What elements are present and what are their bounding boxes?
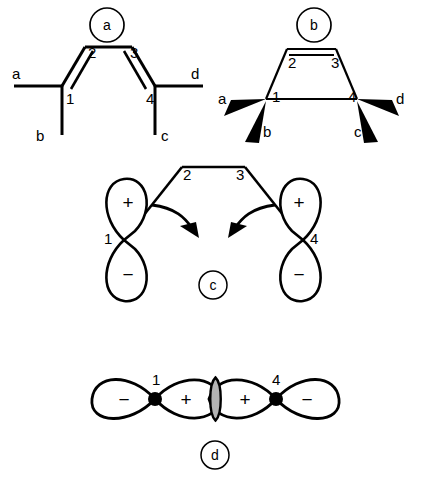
panel-c-atom-3: 3 — [236, 166, 244, 183]
panel-d-label-text: d — [211, 447, 219, 463]
panel-a-atom-1: 1 — [66, 90, 74, 107]
panel-a-circle-label: a — [90, 8, 124, 42]
panel-b-atom-3: 3 — [331, 54, 339, 71]
orbital-c4-upper-sign: + — [293, 192, 304, 213]
panel-c-atom-2: 2 — [183, 166, 191, 183]
nucleus-dot-c1 — [148, 392, 162, 406]
rotation-arrowhead-left — [180, 222, 199, 238]
panel-a-substituent-d: d — [191, 65, 199, 82]
panel-c-chain — [124, 167, 303, 240]
panel-c-circle-label: c — [199, 271, 227, 299]
panel-a-substituent-labels: a b c d — [12, 65, 199, 144]
chemistry-figure: a 1 2 3 4 — [0, 0, 423, 479]
panel-c: + − + − 1 2 3 4 c — [104, 166, 321, 301]
panel-b-atom-2: 2 — [288, 54, 296, 71]
panel-b-substituent-b: b — [263, 123, 271, 140]
panel-b-atom-1: 1 — [272, 88, 280, 105]
orbital-d-inner-right-sign: + — [239, 389, 250, 410]
panel-b-wedges — [224, 99, 399, 143]
panel-a-skeleton — [14, 47, 203, 135]
panel-b: b 1 2 3 4 a b c d — [218, 8, 404, 143]
orbital-c1-lower-sign: − — [122, 264, 133, 285]
panel-b-atom-4: 4 — [348, 88, 356, 105]
panel-b-substituent-labels: a b c d — [218, 90, 404, 140]
panel-a-atom-4: 4 — [146, 90, 154, 107]
panel-b-label-text: b — [310, 17, 318, 33]
panel-a-atom-2: 2 — [88, 44, 96, 61]
panel-a-label-text: a — [103, 17, 111, 33]
panel-d-atom-1: 1 — [152, 371, 160, 388]
nucleus-dot-c4 — [269, 392, 283, 406]
panel-a-substituent-c: c — [161, 127, 169, 144]
panel-b-substituent-d: d — [396, 90, 404, 107]
orbital-c4-lower-sign: − — [293, 264, 304, 285]
panel-d-atom-4: 4 — [272, 371, 280, 388]
panel-d-circle-label: d — [201, 441, 229, 469]
panel-c-arrowheads — [180, 222, 247, 238]
panel-d: − + + − 1 4 d — [92, 371, 339, 469]
rotation-arrowhead-right — [228, 222, 247, 238]
figure-canvas: a 1 2 3 4 — [0, 0, 423, 479]
panel-b-substituent-a: a — [218, 90, 227, 107]
orbital-c1-upper-sign: + — [122, 192, 133, 213]
panel-c-atom-1: 1 — [104, 230, 112, 247]
orbital-overlap-region — [210, 378, 221, 421]
bond-c1-c2-inner — [62, 47, 85, 86]
orbital-d-outer-right-sign: − — [301, 389, 312, 410]
orbital-d-outer-left-sign: − — [118, 389, 129, 410]
panel-a-atom-3: 3 — [130, 44, 138, 61]
panel-a: a 1 2 3 4 — [12, 8, 203, 144]
panel-a-substituent-a: a — [12, 65, 21, 82]
orbital-d-inner-left-sign: + — [180, 389, 191, 410]
panel-b-circle-label: b — [297, 8, 331, 42]
panel-c-rotation-arrows — [152, 205, 275, 228]
panel-b-substituent-c: c — [354, 123, 362, 140]
panel-c-atom-4: 4 — [310, 230, 318, 247]
panel-a-substituent-b: b — [36, 127, 44, 144]
panel-c-label-text: c — [210, 277, 217, 293]
panel-b-atom-labels: 1 2 3 4 — [272, 54, 356, 105]
